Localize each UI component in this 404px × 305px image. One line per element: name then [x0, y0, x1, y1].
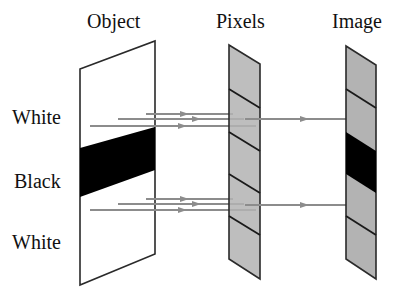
- image-strip: [346, 46, 376, 279]
- object-plane: [80, 41, 155, 285]
- diagram-graphics: [0, 0, 404, 305]
- diagram-object-pixels-image: Object Pixels Image White Black White: [0, 0, 404, 305]
- pixels-strip: [229, 45, 260, 279]
- rays-output: [245, 116, 360, 208]
